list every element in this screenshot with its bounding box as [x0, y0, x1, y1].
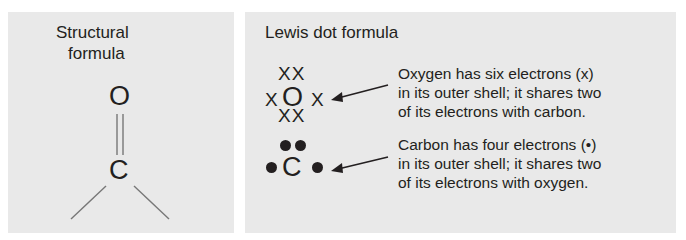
arrow-to-oxygen: [331, 85, 388, 102]
single-bond-left: [71, 186, 106, 219]
oxygen-note-line: Oxygen has six electrons (x): [398, 64, 594, 83]
oxygen-note-line: in its outer shell; it shares two: [398, 83, 601, 102]
structural-formula-panel: Structural formula O C: [8, 12, 234, 233]
oxygen-note-line: of its electrons with carbon.: [398, 102, 586, 121]
carbon-note-line: of its electrons with oxygen.: [398, 173, 588, 192]
lewis-dot-panel: Lewis dot formula XX X O X XX C Oxygen h…: [245, 12, 676, 233]
arrow-to-carbon: [331, 157, 388, 173]
single-bond-right: [134, 186, 169, 219]
arrows: [245, 12, 676, 233]
carbon-note-line: in its outer shell; it shares two: [398, 154, 601, 173]
bond-lines: [8, 12, 234, 233]
carbon-note-line: Carbon has four electrons (•): [398, 135, 596, 154]
